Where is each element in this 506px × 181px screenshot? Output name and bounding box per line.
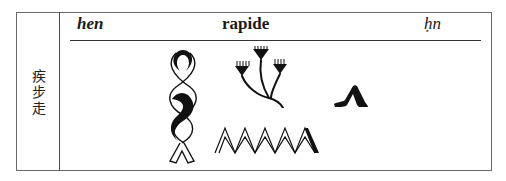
transliteration-left: hen [77, 13, 103, 35]
column-divider [59, 12, 60, 171]
chinese-char: 走 [24, 100, 54, 116]
water-ripple-icon [213, 125, 323, 155]
walking-legs-icon [333, 84, 369, 109]
header-rule [70, 40, 481, 41]
twisted-flax-wick-icon [168, 49, 198, 165]
chinese-label: 疾 步 走 [24, 68, 54, 116]
papyrus-plant-icon [233, 46, 293, 108]
chinese-char: 疾 [24, 68, 54, 84]
transliteration-right: ḥn [424, 13, 441, 35]
chinese-char: 步 [24, 84, 54, 100]
french-meaning: rapide [222, 13, 269, 35]
